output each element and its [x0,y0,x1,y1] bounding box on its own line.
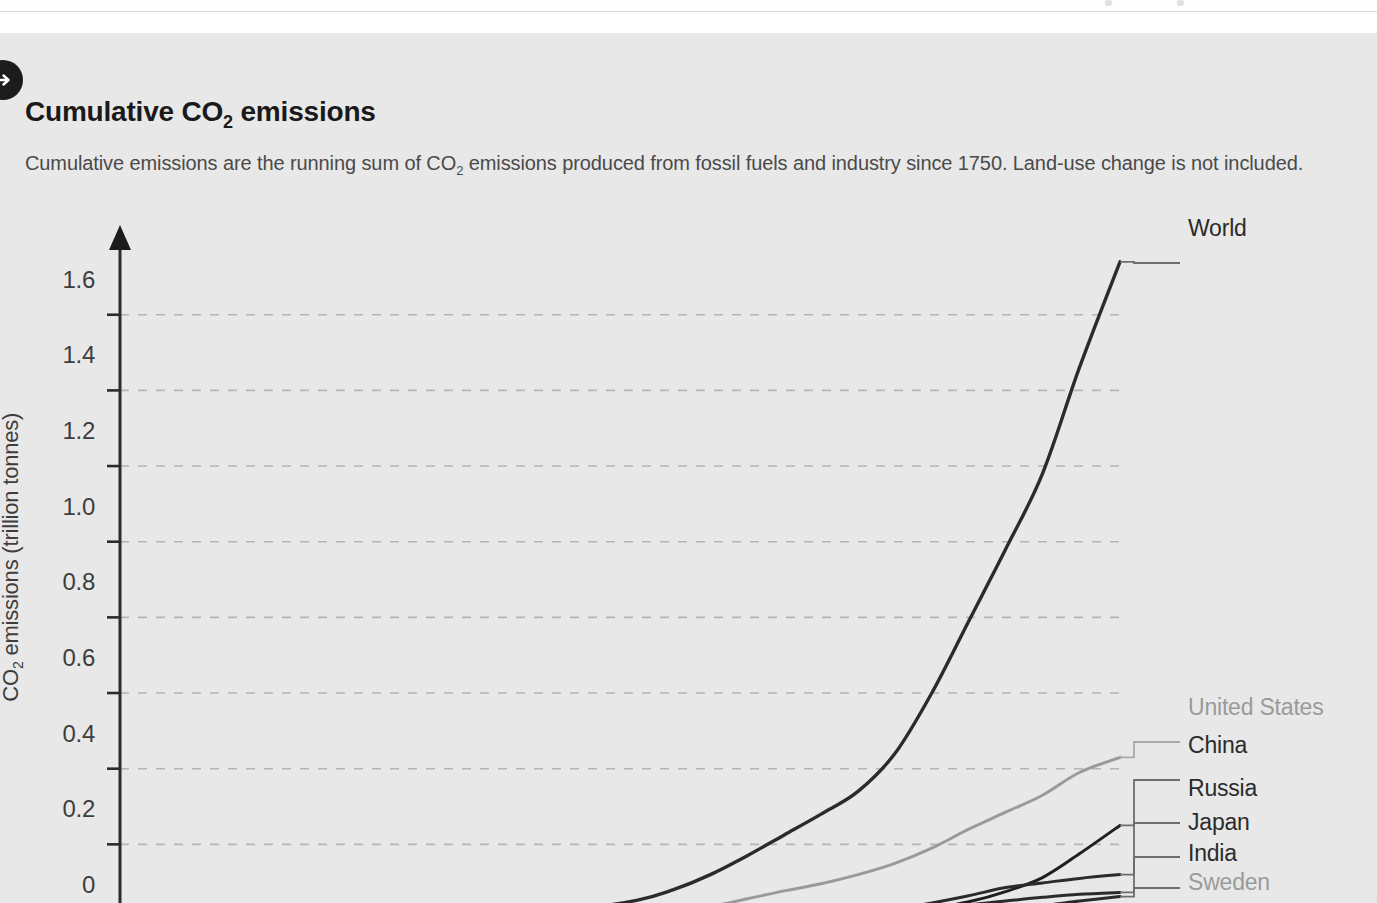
series-line-russia [120,875,1120,903]
y-axis-ticks [107,315,120,903]
series-line-india [120,897,1120,903]
leader-united-states [1120,742,1180,757]
y-tick-label: 0.4 [25,720,95,748]
series-label-united-states[interactable]: United States [1188,694,1323,721]
y-tick-label: 0 [25,871,95,899]
chart-title-tail: emissions [233,96,376,127]
subtitle-part-a: Cumulative emissions are the running sum… [25,152,456,174]
arrow-right-circle-icon[interactable] [0,60,23,100]
series-label-india[interactable]: India [1188,840,1237,867]
leader-world [1120,262,1180,263]
leader-japan [1120,857,1180,892]
chart-subtitle: Cumulative emissions are the running sum… [25,148,1355,186]
series-label-russia[interactable]: Russia [1188,775,1257,802]
axes [109,225,1377,903]
top-cutoff-strip [0,0,1377,12]
series-label-world[interactable]: World [1188,215,1247,242]
ghost-glyph [1177,0,1184,6]
series-label-sweden[interactable]: Sweden [1188,869,1270,896]
y-tick-label: 0.8 [25,568,95,596]
chart-title-main: Cumulative CO [25,96,223,127]
y-tick-label: 1.0 [25,493,95,521]
y-tick-label: 1.6 [25,266,95,294]
series-line-world [120,262,1120,903]
series-label-china[interactable]: China [1188,732,1247,759]
series-label-japan[interactable]: Japan [1188,809,1250,836]
ghost-glyph [1105,0,1112,6]
y-tick-label: 1.4 [25,341,95,369]
legend-leader-lines [1120,262,1180,903]
series-line-japan [120,892,1120,903]
gridlines [120,315,1120,845]
y-tick-label: 0.6 [25,644,95,672]
subtitle-part-b: emissions produced from fossil fuels and… [463,152,1303,174]
leader-russia [1120,823,1180,875]
screenshot-root: Cumulative CO2 emissions Cumulative emis… [0,0,1377,903]
series-line-china [120,825,1120,903]
chart-card: Cumulative CO2 emissions Cumulative emis… [0,33,1377,903]
leader-china [1120,780,1180,825]
series-line-united-states [120,757,1120,903]
y-tick-label: 1.2 [25,417,95,445]
chart-title-subscript: 2 [223,112,233,132]
page-title: Cumulative CO2 emissions [25,96,376,133]
leader-india [1120,888,1180,897]
y-tick-label: 0.2 [25,795,95,823]
y-axis-title: CO2 emissions (trillion tonnes) [0,277,26,837]
series-lines [120,262,1120,903]
